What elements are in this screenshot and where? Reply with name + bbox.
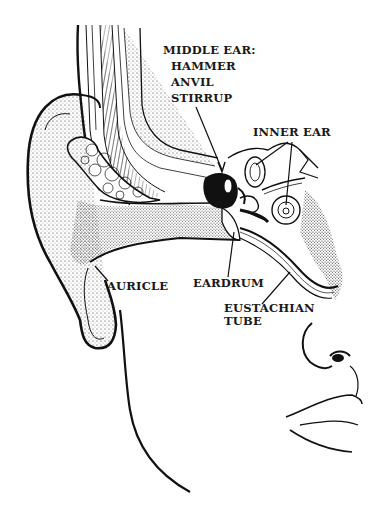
inner-ear-pointer-2 — [286, 142, 292, 205]
auricle-label: AURICLE — [107, 280, 168, 293]
anvil-label: ANVIL — [163, 74, 256, 90]
eustachian-pointer — [262, 272, 290, 304]
middle-ear-label: MIDDLE EAR: HAMMER ANVIL STIRRUP — [163, 42, 256, 106]
face-profile — [120, 310, 362, 492]
inner-ear-pointer-1 — [256, 142, 288, 165]
middle-ear-title: MIDDLE EAR: — [163, 42, 256, 58]
eardrum-label: EARDRUM — [193, 277, 264, 290]
stirrup-label: STIRRUP — [163, 90, 256, 106]
middle-ear-arrowhead — [218, 162, 225, 172]
hammer-label: HAMMER — [163, 58, 256, 74]
eustachian-tube-label: EUSTACHIAN TUBE — [224, 302, 315, 328]
ear-canal — [70, 200, 240, 264]
inner-ear-label: INNER EAR — [253, 126, 331, 139]
eustachian-label-line2: TUBE — [224, 315, 315, 328]
